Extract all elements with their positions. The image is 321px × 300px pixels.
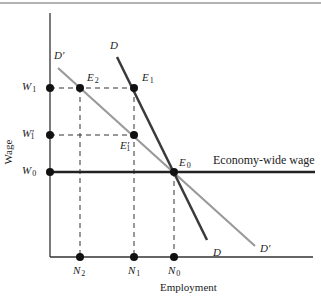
label-w1-prime: W′1 bbox=[22, 128, 35, 141]
point-n0 bbox=[170, 253, 178, 261]
label-economy-wide-wage: Economy-wide wage bbox=[213, 154, 315, 166]
label-w0: W0 bbox=[22, 165, 36, 178]
point-e1-prime bbox=[130, 131, 138, 139]
label-w1: W1 bbox=[22, 81, 36, 94]
point-w1 bbox=[46, 84, 54, 92]
point-w1-prime bbox=[46, 131, 54, 139]
label-n0: N0 bbox=[168, 265, 180, 278]
labor-demand-diagram bbox=[0, 0, 321, 300]
point-e0 bbox=[170, 168, 178, 176]
point-e1 bbox=[130, 84, 138, 92]
label-d-top: D bbox=[110, 40, 118, 51]
label-e1: E1 bbox=[142, 72, 154, 85]
label-d-bottom: D bbox=[213, 247, 221, 258]
label-d-prime-top: D′ bbox=[54, 50, 64, 61]
point-w0 bbox=[46, 168, 54, 176]
point-e2 bbox=[76, 84, 84, 92]
label-e1-prime: E′1 bbox=[120, 140, 130, 153]
point-n1 bbox=[130, 253, 138, 261]
demand-curve-d bbox=[117, 57, 207, 240]
label-d-prime-bottom: D′ bbox=[260, 243, 270, 254]
y-axis-title: Wage bbox=[2, 140, 14, 165]
x-axis-title: Employment bbox=[160, 281, 217, 293]
label-n1: N1 bbox=[128, 265, 140, 278]
label-e0: E0 bbox=[179, 157, 191, 170]
label-n2: N2 bbox=[73, 265, 85, 278]
point-n2 bbox=[76, 253, 84, 261]
label-e2: E2 bbox=[87, 72, 99, 85]
